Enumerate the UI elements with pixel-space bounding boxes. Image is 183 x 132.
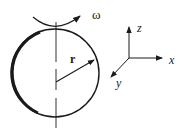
omega-rotation-arrow [33, 16, 80, 26]
y-axis-label: y [115, 76, 122, 90]
y-axis-arrow [111, 58, 129, 77]
z-axis-label: z [136, 21, 142, 35]
x-axis-label: x [168, 53, 175, 67]
sphere [11, 29, 99, 117]
radius-label: r [70, 52, 76, 66]
diagram-canvas: ω r z x y [0, 0, 183, 132]
omega-label: ω [92, 7, 101, 22]
